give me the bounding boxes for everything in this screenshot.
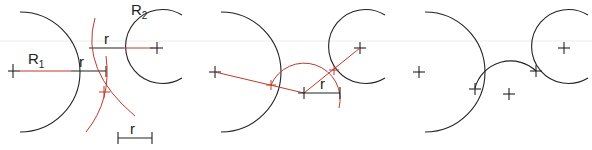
label-scale-r: r xyxy=(130,120,135,137)
line-center-to-arc-center xyxy=(215,72,304,93)
small-circle-arc xyxy=(329,9,385,83)
tangent-point-1 xyxy=(469,83,481,95)
scale-bar-r xyxy=(118,132,152,144)
tangent-point-1 xyxy=(266,80,276,90)
panel-step-1: R1 r R2 r r xyxy=(8,1,182,144)
center-mark-r1 xyxy=(8,64,20,78)
label-r1: R1 xyxy=(28,50,45,70)
tangent-point-2 xyxy=(530,65,542,77)
arc-center-mark xyxy=(503,88,515,100)
center-mark-small xyxy=(558,42,570,54)
small-circle-arc xyxy=(532,9,588,83)
panel-step-2: r xyxy=(209,9,385,132)
tangent-arc-construction-diagram: R1 r R2 r r xyxy=(0,0,592,150)
arc-center-mark xyxy=(298,87,340,99)
panel-step-3 xyxy=(413,9,588,132)
label-radius-r: r xyxy=(320,75,325,92)
large-circle-arc xyxy=(425,12,485,132)
large-circle-arc-r1 xyxy=(20,12,80,132)
label-offset-r1: r xyxy=(79,53,84,70)
center-mark-large xyxy=(413,66,425,78)
small-circle-arc-r2 xyxy=(126,10,182,84)
label-offset-r2: r xyxy=(104,30,109,47)
large-circle-arc xyxy=(221,12,281,132)
